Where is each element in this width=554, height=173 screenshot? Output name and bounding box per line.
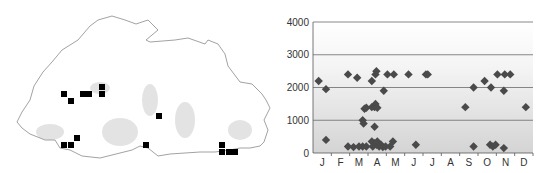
location-marker <box>61 91 67 97</box>
location-marker <box>226 149 232 155</box>
x-tick-label: M <box>391 157 399 168</box>
location-marker <box>232 149 238 155</box>
bhutan-map <box>0 0 277 173</box>
y-tick-labels: 01000200030004000 <box>287 17 310 159</box>
location-marker <box>99 91 105 97</box>
location-marker <box>143 142 149 148</box>
location-marker <box>80 91 86 97</box>
map-vegetation-shading <box>36 82 252 146</box>
location-marker <box>99 84 105 90</box>
y-tick-label: 0 <box>303 148 309 159</box>
location-marker <box>219 149 225 155</box>
location-marker <box>219 142 225 148</box>
location-marker <box>68 98 74 104</box>
x-tick-label: O <box>483 157 491 168</box>
location-marker <box>68 142 74 148</box>
location-marker <box>61 142 67 148</box>
location-marker <box>86 91 92 97</box>
x-tick-label: F <box>337 157 343 168</box>
x-tick-label: N <box>502 157 509 168</box>
x-tick-label: J <box>320 157 325 168</box>
x-tick-label: A <box>447 157 454 168</box>
elevation-by-month-chart: 01000200030004000 JFMAMJJASOND <box>277 0 554 173</box>
x-tick-label: A <box>374 157 381 168</box>
x-tick-label: D <box>520 157 527 168</box>
y-tick-label: 4000 <box>287 17 310 28</box>
x-tick-label: J <box>430 157 435 168</box>
y-tick-label: 3000 <box>287 49 310 60</box>
location-marker <box>74 135 80 141</box>
x-tick-label: J <box>411 157 416 168</box>
location-marker <box>156 113 162 119</box>
x-tick-labels: JFMAMJJASOND <box>320 153 533 168</box>
x-tick-label: S <box>465 157 472 168</box>
y-tick-label: 2000 <box>287 82 310 93</box>
x-tick-label: M <box>355 157 363 168</box>
y-tick-label: 1000 <box>287 115 310 126</box>
